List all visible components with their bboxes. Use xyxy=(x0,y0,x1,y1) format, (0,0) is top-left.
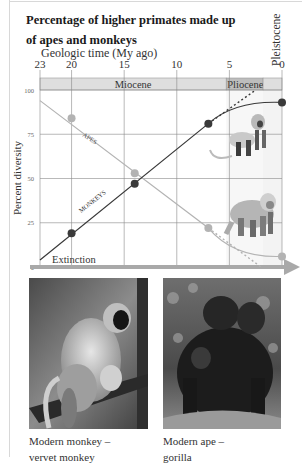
x-tick-label: 23 xyxy=(35,58,47,70)
y-tick-label: 100 xyxy=(24,87,34,94)
caption-monkey-line1: Modern monkey – xyxy=(29,433,110,449)
photo-gorilla xyxy=(163,278,281,429)
y-tick-label: 75 xyxy=(28,131,35,138)
x-tick-label: 15 xyxy=(119,58,131,70)
epoch-bar-pleistocene xyxy=(263,78,282,90)
caption-monkey-line2: vervet monkey xyxy=(29,449,110,465)
data-point-monkeys xyxy=(204,120,212,128)
data-point-apes xyxy=(204,224,212,232)
epoch-label-miocene: Miocene xyxy=(115,79,152,90)
y-tick-label: 50 xyxy=(28,175,35,182)
x-tick-label: 0 xyxy=(279,58,285,70)
epoch-label-pliocene: Pliocene xyxy=(227,79,263,90)
data-point-apes xyxy=(68,114,76,122)
y-tick-label: 25 xyxy=(28,219,35,226)
x-axis-arrow-icon xyxy=(284,259,300,275)
x-tick-label: 10 xyxy=(171,58,183,70)
photo-vervet-monkey xyxy=(29,278,148,429)
x-tick-label: 20 xyxy=(66,58,78,70)
data-point-apes xyxy=(278,252,286,260)
y-axis-title: Percent diversity xyxy=(11,140,23,215)
chart-plot: MiocenePliocene23201510501007550250Perce… xyxy=(0,0,302,280)
extinction-label: Extinction xyxy=(52,254,96,265)
x-axis-bar xyxy=(30,265,288,269)
x-tick-label: 5 xyxy=(227,58,233,70)
series-label-monkeys: MONKEYS xyxy=(77,188,107,214)
caption-monkey: Modern monkey – vervet monkey xyxy=(29,433,110,465)
data-point-apes xyxy=(131,169,139,177)
data-point-monkeys xyxy=(278,98,286,106)
data-point-monkeys xyxy=(131,180,139,188)
data-point-monkeys xyxy=(68,229,76,237)
caption-ape: Modern ape – gorilla xyxy=(163,433,224,465)
caption-ape-line2: gorilla xyxy=(163,449,224,465)
caption-ape-line1: Modern ape – xyxy=(163,433,224,449)
